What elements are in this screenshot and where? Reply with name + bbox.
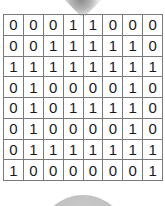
grid-cell: 1 [103,57,123,78]
grid-cell: 0 [84,160,104,181]
grid-cell: 1 [24,140,44,161]
grid-cell: 0 [24,15,44,36]
grid-cell: 0 [64,119,84,140]
grid-cell: 1 [64,140,84,161]
grid-cell: 0 [44,77,64,98]
grid-cell: 1 [44,36,64,57]
grid-cell: 1 [44,140,64,161]
grid-cell: 1 [103,98,123,119]
grid-cell: 1 [143,160,163,181]
grid-cell: 0 [44,15,64,36]
grid-cell: 0 [84,77,104,98]
grid-cell: 0 [4,119,24,140]
grid-cell: 0 [4,140,24,161]
grid-cell: 1 [123,119,143,140]
grid-cell: 1 [64,36,84,57]
grid-cell: 0 [24,160,44,181]
grid-cell: 1 [24,57,44,78]
grid-cell: 1 [123,77,143,98]
grid-cell: 1 [84,15,104,36]
grid-cell: 0 [103,15,123,36]
bottom-decorative-circle [38,195,128,206]
grid-cell: 0 [143,15,163,36]
grid-cell: 0 [84,119,104,140]
grid-cell: 1 [84,98,104,119]
grid-cell: 0 [143,36,163,57]
grid-cell: 1 [123,36,143,57]
grid-cell: 1 [44,57,64,78]
grid-cell: 1 [84,36,104,57]
grid-cell: 0 [64,77,84,98]
grid-cell: 0 [143,119,163,140]
grid-cell: 0 [44,160,64,181]
grid-cell: 1 [84,57,104,78]
grid-cell: 1 [24,98,44,119]
grid-cell: 0 [4,15,24,36]
grid-cell: 0 [4,77,24,98]
grid-cell: 1 [24,119,44,140]
grid-cell: 1 [64,15,84,36]
grid-cell: 1 [143,57,163,78]
grid-cell: 1 [4,57,24,78]
grid-cell: 0 [44,98,64,119]
grid-cell: 0 [4,98,24,119]
grid-cell: 0 [143,77,163,98]
grid-cell: 0 [123,160,143,181]
binary-grid: 0001100000111110111111110100001001011110… [3,14,163,181]
grid-cell: 0 [103,119,123,140]
grid-cell: 0 [64,160,84,181]
grid-cell: 0 [123,15,143,36]
grid-cell: 1 [4,160,24,181]
grid-cell: 0 [103,77,123,98]
grid-cell: 0 [44,119,64,140]
grid-cell: 1 [64,57,84,78]
grid-cell: 1 [103,36,123,57]
grid-cell: 0 [4,36,24,57]
grid-cell: 0 [103,160,123,181]
grid-cell: 1 [103,140,123,161]
grid-cell: 1 [123,57,143,78]
grid-cell: 0 [143,98,163,119]
grid-cell: 1 [123,98,143,119]
grid-cell: 1 [143,140,163,161]
grid-cell: 1 [24,77,44,98]
grid-cell: 1 [84,140,104,161]
grid-cell: 1 [64,98,84,119]
grid-cell: 0 [24,36,44,57]
grid-cell: 1 [123,140,143,161]
